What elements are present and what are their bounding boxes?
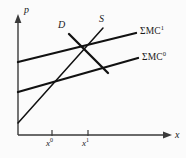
supply-curve-label: S [99, 14, 104, 24]
x-axis [18, 132, 172, 139]
sum-mc-1-label-superscript: 1 [161, 24, 164, 31]
curve-demand [69, 34, 108, 73]
tick-label-x1: x1 [82, 139, 89, 148]
diagram-canvas [0, 0, 186, 158]
sum-mc-0-label-base: ΣMC [142, 52, 163, 62]
curve-supply [18, 28, 103, 123]
tick-label-x0-superscript: 0 [50, 137, 53, 143]
quantity-axis-label: x [175, 130, 179, 140]
demand-curve-label: D [58, 20, 65, 30]
sum-mc-1-label: ΣMC1 [140, 27, 164, 37]
tick-label-x0: x0 [46, 139, 53, 148]
y-axis [15, 14, 22, 135]
economics-diagram: p x D S ΣMC1 ΣMC0 x0 x1 [0, 0, 186, 158]
sum-mc-1-label-base: ΣMC [140, 26, 161, 36]
curve-sum-mc-0 [18, 58, 138, 92]
sum-mc-0-label: ΣMC0 [142, 53, 166, 63]
price-axis-label: p [24, 5, 29, 15]
sum-mc-0-label-superscript: 0 [163, 50, 166, 57]
tick-label-x1-superscript: 1 [86, 137, 89, 143]
